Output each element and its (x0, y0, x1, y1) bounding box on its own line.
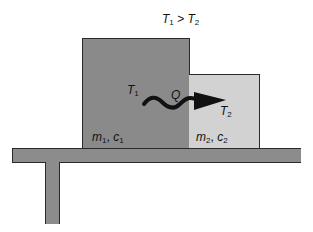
body-2-temperature-label: T2 (220, 105, 232, 119)
body-1-properties-label: m1, c1 (92, 131, 124, 145)
body-1-temperature-label: T1 (127, 84, 139, 98)
temperature-condition-label: T1 > T2 (162, 13, 199, 27)
body-2-properties-label: m2, c2 (196, 131, 228, 145)
heat-flow-label: Q (171, 89, 180, 101)
wavy-arrow-icon (0, 0, 313, 232)
